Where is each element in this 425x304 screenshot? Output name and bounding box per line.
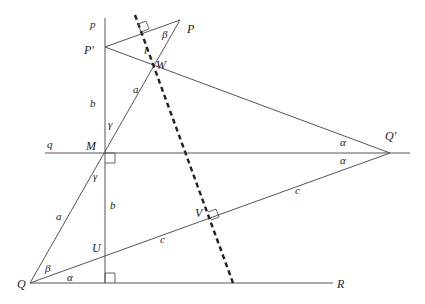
label-a-upper: a: [133, 83, 139, 95]
label-V: V: [195, 206, 204, 220]
label-beta-top: β: [161, 28, 168, 40]
label-gamma-upper: γ: [108, 118, 113, 130]
dashed-bisector: [135, 15, 233, 283]
label-alpha-upper-right: α: [340, 136, 346, 148]
segment-PprimeQprime: [105, 47, 390, 153]
label-Q: Q: [17, 277, 26, 291]
label-c-lower: c: [160, 233, 165, 245]
label-b-upper: b: [90, 97, 96, 109]
label-R: R: [336, 277, 345, 291]
label-beta-bottom: β: [44, 262, 51, 274]
label-alpha-lower-right: α: [340, 154, 346, 166]
geometry-diagram: p P P′ W M q Q′ V U Q R l a a b b c c β …: [0, 0, 425, 304]
right-angle-bottom: [105, 273, 115, 283]
label-P-prime: P′: [83, 43, 94, 57]
label-U: U: [92, 241, 102, 255]
label-c-upper: c: [295, 184, 300, 196]
label-W: W: [156, 58, 167, 72]
right-angle-M: [105, 153, 115, 163]
label-alpha-bottom: α: [67, 271, 73, 283]
label-p: p: [89, 18, 96, 30]
label-M: M: [85, 139, 97, 153]
label-P: P: [186, 22, 195, 36]
label-b-lower: b: [110, 199, 116, 211]
label-gamma-lower: γ: [93, 170, 98, 182]
label-a-lower: a: [56, 210, 62, 222]
label-Q-prime: Q′: [385, 129, 397, 143]
label-q: q: [47, 138, 53, 150]
label-l: l: [144, 44, 147, 56]
